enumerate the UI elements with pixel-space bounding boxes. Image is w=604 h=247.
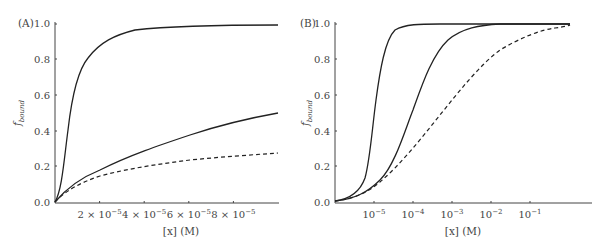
panel-b-xticks: 10−5 10−4 10−3 10−2 10−1 xyxy=(362,201,541,220)
panel-a-ylabel: fbound xyxy=(11,99,26,127)
svg-text:10−5: 10−5 xyxy=(362,208,385,220)
svg-text:0.6: 0.6 xyxy=(34,90,50,101)
svg-text:10−4: 10−4 xyxy=(401,208,425,220)
svg-text:2 × 10−5: 2 × 10−5 xyxy=(78,208,122,220)
panel-a-xlabel: [x] (M) xyxy=(163,225,199,237)
svg-text:10−2: 10−2 xyxy=(479,208,502,220)
svg-text:10−1: 10−1 xyxy=(518,208,541,220)
svg-text:4 × 10−5: 4 × 10−5 xyxy=(122,208,166,220)
panel-b-xlabel: [x] (M) xyxy=(445,225,481,237)
panel-b-curve-steep xyxy=(335,24,570,201)
svg-text:8 × 10−5: 8 × 10−5 xyxy=(211,208,255,220)
panel-a-curve-dashed xyxy=(55,153,278,202)
svg-text:0.6: 0.6 xyxy=(314,90,330,101)
panel-a-xticks: 2 × 10−5 4 × 10−5 6 × 10−5 8 × 10−5 xyxy=(78,201,256,220)
svg-text:1.0: 1.0 xyxy=(314,18,330,29)
svg-text:0.4: 0.4 xyxy=(34,126,50,137)
panel-b: (B) 0.0 0.2 0.4 0.6 0.8 1.0 10−5 10−4 10… xyxy=(299,17,592,237)
panel-b-ylabel: fbound xyxy=(299,99,314,127)
svg-text:0.0: 0.0 xyxy=(314,197,330,208)
svg-text:10−3: 10−3 xyxy=(440,208,463,220)
svg-text:0.2: 0.2 xyxy=(34,161,50,172)
panel-a: (A) 0.0 0.2 0.4 0.6 0.8 1.0 2 × 10−5 4 ×… xyxy=(11,17,279,237)
svg-text:6 × 10−5: 6 × 10−5 xyxy=(167,208,211,220)
panel-a-curve-shallow xyxy=(55,113,278,202)
svg-text:0.0: 0.0 xyxy=(34,197,50,208)
figure: (A) 0.0 0.2 0.4 0.6 0.8 1.0 2 × 10−5 4 ×… xyxy=(0,0,604,247)
panel-b-yticks: 0.0 0.2 0.4 0.6 0.8 1.0 xyxy=(314,18,337,208)
panel-a-label: (A) xyxy=(18,17,34,29)
svg-text:0.2: 0.2 xyxy=(314,161,330,172)
panel-a-yticks: 0.0 0.2 0.4 0.6 0.8 1.0 xyxy=(34,18,57,208)
svg-text:1.0: 1.0 xyxy=(34,18,50,29)
panel-b-curve-shallow xyxy=(335,24,570,201)
panel-b-curve-dashed xyxy=(335,25,570,201)
svg-text:0.8: 0.8 xyxy=(314,54,330,65)
svg-text:0.4: 0.4 xyxy=(314,126,330,137)
svg-text:0.8: 0.8 xyxy=(34,54,50,65)
